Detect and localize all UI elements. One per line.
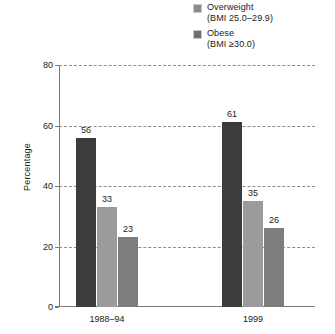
legend-label-overweight-range: (BMI 25.0–29.9) (207, 13, 273, 23)
legend-swatch-overweight (193, 4, 202, 13)
bar: 35 (243, 201, 263, 307)
bar: 23 (118, 237, 138, 307)
legend-label-overweight-title: Overweight (207, 2, 254, 12)
x-category-label: 1999 (243, 314, 263, 324)
y-tick-mark (55, 186, 59, 187)
y-axis-title: Percentage (22, 143, 32, 191)
bar-chart: Overweight (BMI 25.0–29.9) Obese (BMI ≥3… (0, 0, 335, 334)
bar: 33 (97, 207, 117, 307)
y-tick-label: 80 (43, 60, 53, 70)
gridline (59, 126, 315, 127)
gridline (59, 186, 315, 187)
bar-value-label: 61 (227, 109, 237, 119)
y-tick-label: 20 (43, 242, 53, 252)
bar-value-label: 56 (81, 125, 91, 135)
bar: 61 (222, 122, 242, 307)
plot-area: 806040200 563323613526 1988–941999 (59, 65, 315, 307)
legend-label-obese: Obese (BMI ≥30.0) (207, 28, 255, 50)
y-tick-label: 0 (48, 302, 53, 312)
x-category-label: 1988–94 (89, 314, 124, 324)
legend-item-overweight: Overweight (BMI 25.0–29.9) (193, 2, 333, 24)
bar-value-label: 26 (269, 215, 279, 225)
bar-value-label: 35 (248, 188, 258, 198)
legend-item-obese: Obese (BMI ≥30.0) (193, 28, 333, 50)
chart-legend: Overweight (BMI 25.0–29.9) Obese (BMI ≥3… (193, 2, 333, 54)
bar-value-label: 33 (102, 194, 112, 204)
y-tick-label: 60 (43, 121, 53, 131)
y-tick-mark (55, 247, 59, 248)
y-tick-mark (55, 126, 59, 127)
legend-label-overweight: Overweight (BMI 25.0–29.9) (207, 2, 273, 24)
legend-label-obese-range: (BMI ≥30.0) (207, 39, 255, 49)
bar: 26 (264, 228, 284, 307)
y-tick-mark (55, 65, 59, 66)
bar: 56 (76, 138, 96, 307)
y-tick-label: 40 (43, 181, 53, 191)
legend-swatch-obese (193, 30, 202, 39)
y-tick-mark (55, 307, 59, 308)
gridline (59, 65, 315, 66)
bar-value-label: 23 (123, 224, 133, 234)
legend-label-obese-title: Obese (207, 28, 234, 38)
